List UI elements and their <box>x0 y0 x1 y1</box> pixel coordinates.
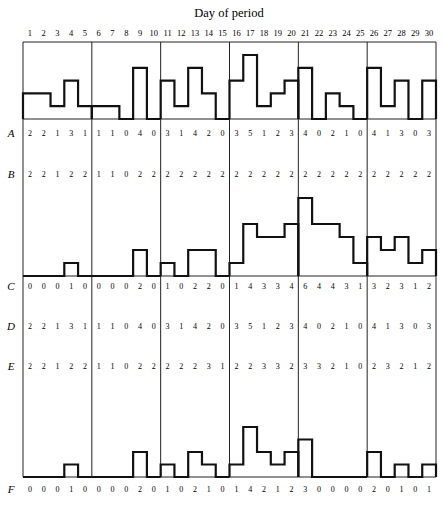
histogram-panel <box>298 198 367 276</box>
row-value: 4 <box>193 322 197 331</box>
row-value: 0 <box>55 485 59 494</box>
row-value: 2 <box>28 129 32 138</box>
row-value: 1 <box>179 322 183 331</box>
day-label: 22 <box>315 28 324 38</box>
row-value: 1 <box>386 129 390 138</box>
row-value: 2 <box>207 322 211 331</box>
row-value: 0 <box>221 282 225 291</box>
row-value: 0 <box>97 282 101 291</box>
row-value: 2 <box>372 170 376 179</box>
day-label: 28 <box>397 28 406 38</box>
row-value: 2 <box>152 170 156 179</box>
row-value: 1 <box>386 322 390 331</box>
row-value: 2 <box>345 170 349 179</box>
row-value: 1 <box>262 322 266 331</box>
row-value: 2 <box>289 485 293 494</box>
row-value: 4 <box>331 282 335 291</box>
row-value: 3 <box>166 322 170 331</box>
histogram-panel <box>23 465 92 478</box>
day-label: 17 <box>246 28 255 38</box>
row-value: 3 <box>289 322 293 331</box>
row-value: 2 <box>331 170 335 179</box>
row-value: 2 <box>193 282 197 291</box>
row-value: 1 <box>400 485 404 494</box>
row-value: 0 <box>83 485 87 494</box>
row-value: 2 <box>276 322 280 331</box>
row-value: 2 <box>400 170 404 179</box>
day-label: 12 <box>177 28 186 38</box>
row-label-f: F <box>7 483 15 495</box>
day-label: 5 <box>83 28 87 38</box>
row-value: 0 <box>152 129 156 138</box>
row-value: 1 <box>427 485 431 494</box>
histogram-panel <box>92 68 161 119</box>
row-value: 1 <box>234 282 238 291</box>
row-value: 2 <box>303 170 307 179</box>
day-label: 16 <box>232 28 241 38</box>
row-value: 2 <box>331 362 335 371</box>
row-value: 0 <box>152 485 156 494</box>
row-value: 0 <box>221 129 225 138</box>
row-value: 3 <box>289 129 293 138</box>
row-value: 3 <box>372 282 376 291</box>
day-label: 20 <box>287 28 296 38</box>
row-value: 2 <box>193 485 197 494</box>
row-value: 3 <box>69 322 73 331</box>
histogram-panel <box>230 427 299 477</box>
row-value: 1 <box>83 129 87 138</box>
row-value: 2 <box>69 362 73 371</box>
row-value: 2 <box>83 170 87 179</box>
row-value: 4 <box>138 322 142 331</box>
row-value: 2 <box>372 362 376 371</box>
row-value: 3 <box>303 362 307 371</box>
row-value: 3 <box>345 282 349 291</box>
row-value: 0 <box>152 322 156 331</box>
row-value: 4 <box>248 485 252 494</box>
row-value: 2 <box>331 322 335 331</box>
row-value: 3 <box>234 129 238 138</box>
row-value: 0 <box>110 282 114 291</box>
day-label: 4 <box>69 28 74 38</box>
row-value: 2 <box>138 282 142 291</box>
day-label: 7 <box>110 28 114 38</box>
day-label: 23 <box>329 28 338 38</box>
row-value: 3 <box>400 129 404 138</box>
row-value: 2 <box>262 170 266 179</box>
row-value: 2 <box>152 362 156 371</box>
row-value: 2 <box>69 170 73 179</box>
row-value: 2 <box>234 170 238 179</box>
row-value: 0 <box>317 129 321 138</box>
row-value: 1 <box>207 485 211 494</box>
row-value: 4 <box>303 129 307 138</box>
row-value: 2 <box>207 170 211 179</box>
row-value: 4 <box>138 129 142 138</box>
row-value: 2 <box>42 129 46 138</box>
row-value: 2 <box>358 170 362 179</box>
row-value: 4 <box>317 282 321 291</box>
day-label: 9 <box>138 28 142 38</box>
row-value: 0 <box>124 322 128 331</box>
row-value: 0 <box>124 485 128 494</box>
row-value: 0 <box>331 485 335 494</box>
row-value: 2 <box>413 170 417 179</box>
day-label: 3 <box>55 28 59 38</box>
row-value: 2 <box>193 170 197 179</box>
row-value: 0 <box>42 282 46 291</box>
row-value: 0 <box>413 129 417 138</box>
row-value: 0 <box>152 282 156 291</box>
histogram-panel <box>298 68 367 119</box>
row-value: 2 <box>138 485 142 494</box>
histogram-panel <box>23 81 92 119</box>
day-label: 29 <box>411 28 420 38</box>
row-value: 2 <box>331 129 335 138</box>
day-label: 15 <box>218 28 227 38</box>
row-label-d: D <box>6 320 15 332</box>
figure-title: Day of period <box>194 6 264 20</box>
row-value: 2 <box>42 170 46 179</box>
histogram-panel <box>230 224 299 276</box>
histogram-panel <box>298 440 367 478</box>
row-value: 0 <box>358 129 362 138</box>
row-value: 0 <box>28 282 32 291</box>
histogram-panel <box>230 55 299 119</box>
row-value: 2 <box>138 170 142 179</box>
